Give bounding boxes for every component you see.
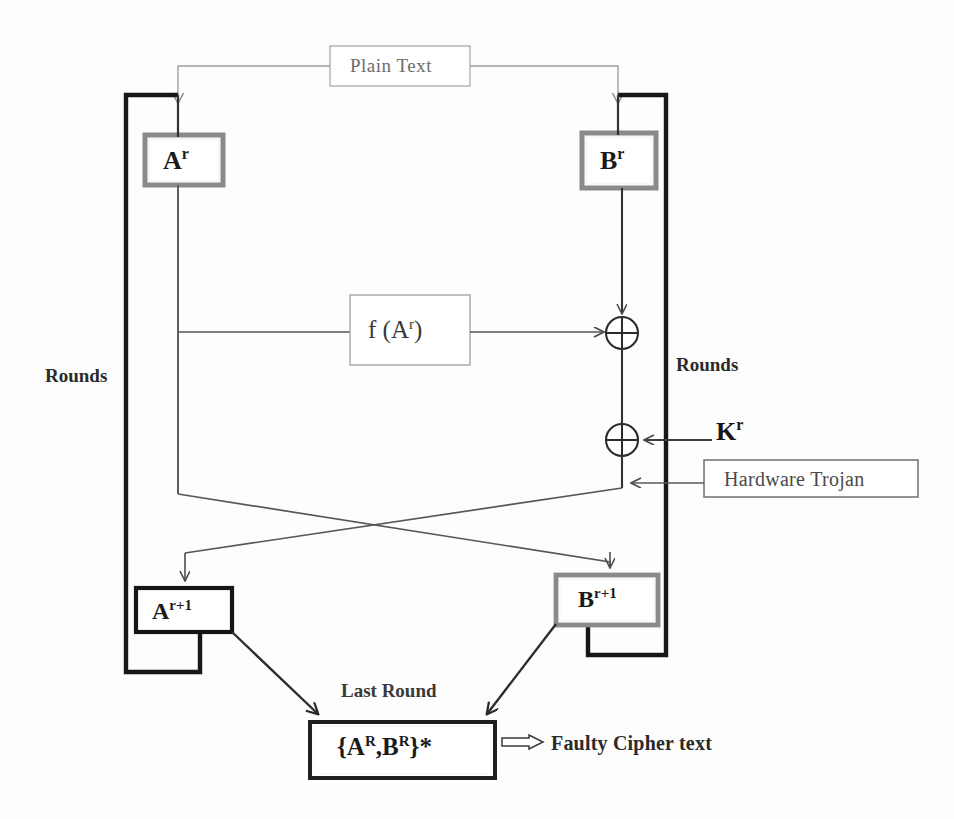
rounds-label-left: Rounds xyxy=(45,366,107,385)
wire-b-r1-to-cipher xyxy=(487,624,556,714)
hardware-trojan-label: Hardware Trojan xyxy=(724,469,865,489)
feistel-trojan-diagram: Plain Text Ar Br f (Ar) Rounds Rounds Kr… xyxy=(0,0,954,819)
node-a-r-sup: r xyxy=(182,145,189,162)
faulty-cipher-text-label: Faulty Cipher text xyxy=(551,733,712,753)
cipher-mid: ,B xyxy=(376,733,399,760)
connector-plaintext-to-a xyxy=(178,66,330,103)
node-f-a-r-base: f (A xyxy=(368,316,409,343)
node-a-r-label: Ar xyxy=(163,146,189,174)
wire-a-r1-to-cipher xyxy=(232,632,318,714)
cipher-sup-1: R xyxy=(365,733,376,749)
cipher-output-label: {AR,BR}* xyxy=(337,734,432,759)
double-arrow-icon xyxy=(502,735,543,749)
round-key-base: K xyxy=(716,417,736,446)
cipher-sup-2: R xyxy=(399,733,410,749)
last-round-label: Last Round xyxy=(341,681,437,700)
rounds-label-right: Rounds xyxy=(676,355,738,374)
round-key-label: Kr xyxy=(716,417,743,445)
wire-cross-b-to-a xyxy=(185,488,622,553)
node-b-r1-sup: r+1 xyxy=(594,585,617,601)
node-b-r-base: B xyxy=(600,146,617,175)
node-b-r1-base: B xyxy=(578,586,594,612)
cipher-prefix: {A xyxy=(337,733,365,760)
node-a-r1-label: Ar+1 xyxy=(152,598,192,623)
wire-cross-a-to-b xyxy=(178,494,610,565)
node-f-a-r-tail: ) xyxy=(414,316,422,343)
cipher-suffix: }* xyxy=(410,733,432,760)
node-a-r1-base: A xyxy=(152,598,169,624)
round-key-sup: r xyxy=(736,416,743,433)
diagram-canvas xyxy=(0,0,954,819)
node-b-r1-label: Br+1 xyxy=(578,586,617,611)
node-a-r-base: A xyxy=(163,146,182,175)
node-f-a-r-label: f (Ar) xyxy=(368,317,422,342)
node-a-r1-sup: r+1 xyxy=(169,597,192,613)
node-b-r-label: Br xyxy=(600,146,624,174)
node-b-r-sup: r xyxy=(617,145,624,162)
connector-plaintext-to-b xyxy=(470,66,618,103)
plain-text-label: Plain Text xyxy=(350,56,432,75)
